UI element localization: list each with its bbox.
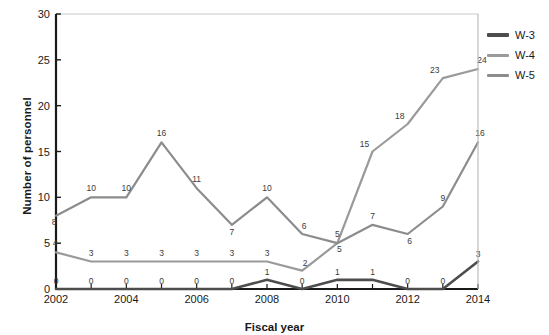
legend-item-w3[interactable]: W-3 bbox=[487, 29, 535, 41]
data-label: 3 bbox=[194, 248, 199, 258]
legend-swatch-w3 bbox=[487, 33, 509, 36]
data-label: 4 bbox=[53, 238, 58, 248]
data-label: 1 bbox=[335, 267, 340, 277]
data-label: 7 bbox=[370, 211, 375, 221]
legend-label-w3: W-3 bbox=[515, 29, 535, 41]
data-label: 24 bbox=[477, 55, 487, 65]
data-label: 16 bbox=[475, 128, 485, 138]
data-label: 0 bbox=[229, 276, 234, 286]
data-label: 10 bbox=[122, 183, 132, 193]
data-label: 0 bbox=[54, 276, 59, 286]
data-label: 23 bbox=[430, 65, 440, 75]
data-label: 18 bbox=[395, 111, 405, 121]
legend-swatch-w4 bbox=[487, 54, 509, 57]
data-label: 10 bbox=[262, 183, 272, 193]
data-label: 0 bbox=[159, 276, 164, 286]
data-label: 3 bbox=[265, 248, 270, 258]
data-label: 9 bbox=[440, 193, 445, 203]
data-label: 11 bbox=[192, 174, 201, 184]
data-label: 8 bbox=[52, 217, 57, 227]
chart-legend: W-3 W-4 W-5 bbox=[487, 29, 535, 81]
data-label: 6 bbox=[302, 221, 307, 231]
data-label: 1 bbox=[370, 267, 375, 277]
data-label: 16 bbox=[157, 128, 167, 138]
data-label: 0 bbox=[194, 276, 199, 286]
legend-item-w4[interactable]: W-4 bbox=[487, 49, 535, 61]
plot-area: 0000001011003433333325151823248101016117… bbox=[0, 0, 549, 335]
data-label: 3 bbox=[159, 248, 164, 258]
data-label: 3 bbox=[89, 248, 94, 258]
legend-label-w5: W-5 bbox=[515, 69, 535, 81]
line-chart: Number of personnel Fiscal year 05101520… bbox=[0, 0, 549, 335]
data-label: 0 bbox=[440, 276, 445, 286]
data-label: 0 bbox=[300, 276, 305, 286]
data-label: 5 bbox=[337, 244, 342, 254]
data-label: 0 bbox=[89, 276, 94, 286]
data-label: 0 bbox=[405, 276, 410, 286]
data-label: 0 bbox=[124, 276, 129, 286]
data-label: 7 bbox=[229, 227, 234, 237]
series-line-w-4 bbox=[56, 69, 478, 271]
legend-swatch-w5 bbox=[487, 74, 509, 77]
data-label: 5 bbox=[335, 229, 340, 239]
data-label: 3 bbox=[124, 248, 129, 258]
data-label: 3 bbox=[229, 248, 234, 258]
data-label: 15 bbox=[360, 139, 370, 149]
data-label: 6 bbox=[407, 236, 412, 246]
legend-item-w5[interactable]: W-5 bbox=[487, 69, 535, 81]
legend-label-w4: W-4 bbox=[515, 49, 535, 61]
data-label: 2 bbox=[303, 258, 308, 268]
data-label: 1 bbox=[265, 267, 270, 277]
data-label: 10 bbox=[86, 183, 96, 193]
